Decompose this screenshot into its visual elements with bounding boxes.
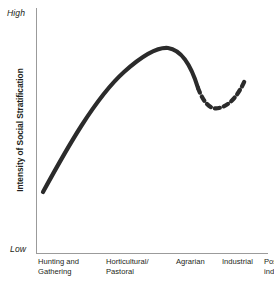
chart-container: High Low Intensity of Social Stratificat… bbox=[0, 0, 274, 286]
x-axis-labels: Hunting and Gathering Horticultural/ Pas… bbox=[36, 257, 270, 285]
trend-curve-dashed bbox=[198, 80, 245, 108]
trend-curve-solid bbox=[43, 48, 198, 192]
x-tick-label-industrial: Industrial bbox=[222, 257, 266, 267]
x-tick-label-agrarian: Agrarian bbox=[176, 257, 222, 267]
chart-plot-area bbox=[0, 0, 274, 286]
x-tick-label-post-industrial: Post- industrial bbox=[264, 257, 274, 276]
x-tick-label-horticultural-pastoral: Horticultural/ Pastoral bbox=[106, 257, 172, 276]
x-tick-label-hunting-and-gathering: Hunting and Gathering bbox=[38, 257, 104, 276]
